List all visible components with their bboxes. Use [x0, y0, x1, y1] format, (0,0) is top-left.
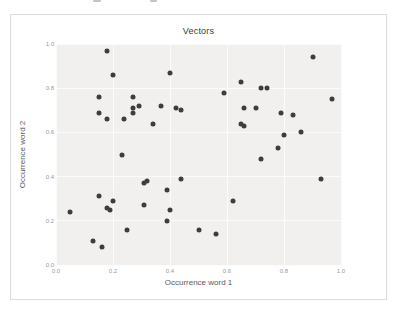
data-point [111, 198, 116, 203]
cropped-text-fragment-left [93, 0, 101, 2]
x-gridline [284, 44, 285, 265]
x-tick-label: 0.0 [52, 268, 60, 274]
y-gridline [56, 265, 341, 266]
y-gridline [56, 220, 341, 221]
y-tick-label: 0.8 [40, 85, 54, 91]
y-tick-label: 0.0 [40, 262, 54, 268]
data-point [159, 103, 164, 108]
data-point [299, 130, 304, 135]
x-axis-label: Occurrence word 1 [56, 278, 341, 287]
x-tick-label: 1.0 [337, 268, 345, 274]
data-point [310, 55, 315, 60]
data-point [168, 207, 173, 212]
data-point [290, 112, 295, 117]
x-tick-label: 0.6 [223, 268, 231, 274]
y-gridline [56, 88, 341, 89]
data-point [259, 156, 264, 161]
x-tick-label: 0.8 [280, 268, 288, 274]
data-point [239, 79, 244, 84]
x-tick-label: 0.2 [109, 268, 117, 274]
data-point [196, 227, 201, 232]
data-point [111, 72, 116, 77]
data-point [279, 110, 284, 115]
data-point [253, 106, 258, 111]
y-tick-label: 1.0 [40, 41, 54, 47]
data-point [230, 198, 235, 203]
data-point [125, 227, 130, 232]
data-point [136, 103, 141, 108]
data-point [150, 121, 155, 126]
data-point [276, 145, 281, 150]
data-point [168, 70, 173, 75]
data-point [282, 132, 287, 137]
data-point [96, 110, 101, 115]
data-point [91, 238, 96, 243]
data-point [242, 123, 247, 128]
data-point [96, 95, 101, 100]
data-point [96, 194, 101, 199]
y-gridline [56, 176, 341, 177]
data-point [319, 176, 324, 181]
x-gridline [56, 44, 57, 265]
y-tick-label: 0.2 [40, 218, 54, 224]
plot-area [56, 44, 341, 265]
y-tick-label: 0.4 [40, 174, 54, 180]
data-point [173, 106, 178, 111]
data-point [179, 108, 184, 113]
y-tick-label: 0.6 [40, 129, 54, 135]
data-point [222, 90, 227, 95]
data-point [105, 117, 110, 122]
y-axis-label: Occurrence word 2 [18, 90, 27, 220]
data-point [142, 181, 147, 186]
chart-title: Vectors [56, 26, 341, 36]
data-point [119, 152, 124, 157]
data-point [165, 218, 170, 223]
data-point [108, 207, 113, 212]
data-point [179, 176, 184, 181]
data-point [165, 187, 170, 192]
y-gridline [56, 44, 341, 45]
data-point [105, 48, 110, 53]
data-point [259, 86, 264, 91]
x-gridline [170, 44, 171, 265]
x-gridline [227, 44, 228, 265]
data-point [99, 245, 104, 250]
data-point [142, 203, 147, 208]
data-point [122, 117, 127, 122]
data-point [130, 95, 135, 100]
data-point [264, 86, 269, 91]
data-point [213, 232, 218, 237]
data-point [330, 97, 335, 102]
data-point [130, 110, 135, 115]
data-point [242, 106, 247, 111]
cropped-text-fragment-right [150, 0, 157, 2]
figure-card: Vectors 0.00.20.40.60.81.0 0.00.20.40.60… [10, 14, 387, 300]
data-point [68, 209, 73, 214]
x-gridline [341, 44, 342, 265]
x-tick-label: 0.4 [166, 268, 174, 274]
